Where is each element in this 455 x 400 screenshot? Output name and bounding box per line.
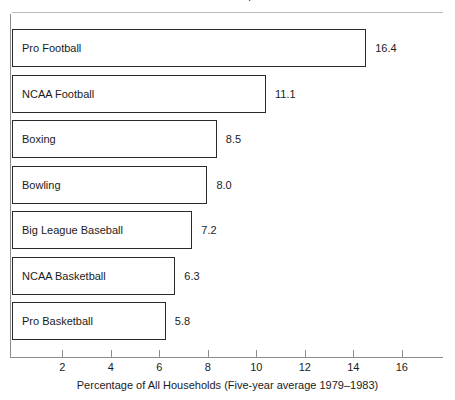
bar-category-label: NCAA Football [22, 75, 94, 113]
bar-row: Boxing8.5 [12, 120, 277, 158]
bar-row: Big League Baseball7.2 [12, 211, 252, 249]
bar-category-label: Pro Football [22, 29, 81, 67]
x-axis-tick [111, 350, 112, 357]
x-axis-tick [305, 350, 306, 357]
bar-value-label: 8.5 [226, 120, 241, 158]
bar-row: Pro Football16.4 [12, 29, 426, 67]
x-axis-tick-label: 8 [196, 361, 220, 373]
x-axis-tick-label: 12 [293, 361, 317, 373]
bar-value-label: 11.1 [275, 75, 296, 113]
bar-value-label: 6.3 [184, 257, 199, 295]
bar-value-label: 16.4 [375, 29, 396, 67]
bar-category-label: NCAA Basketball [22, 257, 106, 295]
bar-category-label: Bowling [22, 166, 61, 204]
x-axis-tick-label: 14 [341, 361, 365, 373]
x-axis-tick-label: 4 [99, 361, 123, 373]
x-axis-caption: Percentage of All Households (Five-year … [0, 379, 455, 391]
bar-category-label: Pro Basketball [22, 302, 93, 340]
bar-value-label: 5.8 [175, 302, 190, 340]
x-axis-tick-label: 6 [147, 361, 171, 373]
bar-value-label: 8.0 [216, 166, 231, 204]
bar-row: NCAA Basketball6.3 [12, 257, 235, 295]
x-axis-tick-label: 2 [50, 361, 74, 373]
x-axis-tick [62, 350, 63, 357]
x-axis-tick [256, 350, 257, 357]
bar-row: NCAA Football11.1 [12, 75, 326, 113]
x-axis-tick [208, 350, 209, 357]
x-axis-tick [159, 350, 160, 357]
x-axis-tick-label: 16 [390, 361, 414, 373]
bar-row: Pro Basketball5.8 [12, 302, 226, 340]
bar-chart-figure: . Pro Football16.4NCAA Football11.1Boxin… [0, 0, 455, 400]
x-axis-tick [402, 350, 403, 357]
bar-value-label: 7.2 [201, 211, 216, 249]
x-axis-tick-label: 10 [244, 361, 268, 373]
x-axis-tick [353, 350, 354, 357]
bar-row: Bowling8.0 [12, 166, 267, 204]
bar-category-label: Big League Baseball [22, 211, 123, 249]
bars-group: Pro Football16.4NCAA Football11.1Boxing8… [0, 0, 455, 358]
bar-category-label: Boxing [22, 120, 56, 158]
